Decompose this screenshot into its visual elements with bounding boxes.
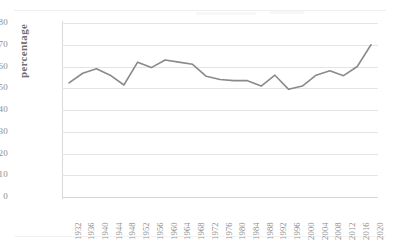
x-tick-label: 1992: [278, 222, 288, 240]
gridline: [62, 197, 378, 198]
x-tick-label: 1944: [114, 222, 124, 240]
y-axis-title: percentage: [17, 24, 29, 78]
y-tick-label: 10: [0, 170, 8, 179]
x-tick-label: 2008: [333, 222, 343, 240]
x-tick-label: 1996: [292, 222, 302, 240]
y-tick-label: 0: [0, 192, 8, 201]
x-tick-label: 1968: [196, 222, 206, 240]
series-svg: [62, 23, 378, 197]
x-tick-label: 2016: [361, 222, 371, 240]
y-tick-label: 60: [0, 62, 8, 71]
x-tick-label: 1952: [141, 222, 151, 240]
x-tick-label: 1932: [73, 222, 83, 240]
y-tick-label: 40: [0, 105, 8, 114]
x-tick-label: 1988: [265, 222, 275, 240]
x-tick-label: 1936: [86, 222, 96, 240]
x-tick-label: 1964: [182, 222, 192, 240]
scan-rule-top: [14, 10, 386, 11]
x-tick-label: 1972: [210, 222, 220, 240]
x-tick-label: 1960: [169, 222, 179, 240]
plot-area: [62, 23, 378, 197]
x-tick-label: 2012: [347, 222, 357, 240]
x-tick-label: 2004: [320, 222, 330, 240]
line-series-percentage: [69, 45, 371, 90]
scan-smudge: [196, 12, 256, 15]
y-tick-label: 30: [0, 127, 8, 136]
x-tick-label: 1984: [251, 222, 261, 240]
x-tick-label: 1940: [100, 222, 110, 240]
x-tick-label: 1976: [224, 222, 234, 240]
x-tick-label: 2000: [306, 222, 316, 240]
x-tick-label: 2020: [375, 222, 385, 240]
x-tick-label: 1956: [155, 222, 165, 240]
y-tick-label: 20: [0, 149, 8, 158]
x-axis-ticks: 1932193619401944194819521956196019641968…: [62, 200, 378, 246]
y-tick-label: 80: [0, 18, 8, 27]
chart-container: percentage 80706050403020100 19321936194…: [0, 0, 398, 247]
scan-smudge: [270, 11, 304, 14]
y-tick-label: 50: [0, 83, 8, 92]
x-tick-label: 1948: [127, 222, 137, 240]
y-tick-label: 70: [0, 40, 8, 49]
x-tick-label: 1980: [237, 222, 247, 240]
